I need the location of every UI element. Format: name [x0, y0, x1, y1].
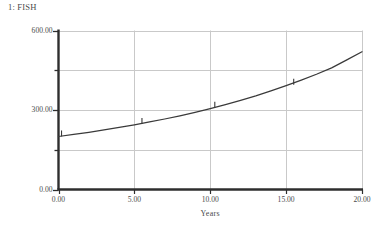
axis-tick-marks — [53, 32, 363, 195]
x-axis-title: Years — [39, 209, 374, 218]
y-axis-tick-label: 300.00 — [9, 105, 53, 114]
x-axis-tick-label: 20.00 — [342, 195, 374, 204]
x-axis-tick-label: 5.00 — [114, 195, 154, 204]
y-axis-tick-label: 0.00 — [9, 185, 53, 194]
x-axis-tick-label: 10.00 — [190, 195, 230, 204]
chart-container: 1: FISH 0.00300.00600.00 0.005.0010.0015… — [0, 0, 374, 235]
x-axis-tick-label: 0.00 — [39, 195, 79, 204]
x-axis-tick-label: 15.00 — [266, 195, 306, 204]
data-series-markers — [62, 79, 294, 137]
y-axis-tick-label: 600.00 — [9, 26, 53, 35]
